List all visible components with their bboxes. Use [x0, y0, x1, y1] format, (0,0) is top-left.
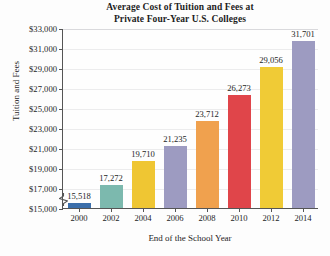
x-axis-tick-label: 2002 [102, 213, 119, 223]
y-axis-tick [59, 189, 63, 190]
x-axis-tick [271, 208, 272, 212]
x-axis-tick [111, 208, 112, 212]
bar-value-label: 23,712 [195, 109, 219, 119]
y-axis-tick [59, 89, 63, 90]
x-axis-tick-label: 2000 [70, 213, 87, 223]
x-axis-tick [303, 208, 304, 212]
bar: 19,710 [132, 161, 155, 208]
x-axis-tick-label: 2008 [198, 213, 215, 223]
bar: 31,701 [292, 41, 315, 208]
y-axis-tick [59, 129, 63, 130]
x-axis-tick [239, 208, 240, 212]
bar-value-label: 26,273 [227, 83, 251, 93]
bar: 26,273 [228, 95, 251, 208]
bar: 17,272 [100, 185, 123, 208]
y-axis-title: Tuition and Fees [11, 31, 21, 151]
chart-title-line-1: Average Cost of Tuition and Fees at [40, 2, 320, 14]
y-axis-tick-label: $33,000 [29, 24, 57, 34]
chart-title: Average Cost of Tuition and Fees at Priv… [40, 2, 320, 25]
gridline [63, 29, 318, 30]
bar: 29,056 [260, 67, 283, 208]
bar-value-label: 17,272 [99, 173, 123, 183]
y-axis-tick-label: $25,000 [29, 104, 57, 114]
bar: 21,235 [164, 146, 187, 208]
y-axis-tick [59, 109, 63, 110]
y-axis-tick [59, 69, 63, 70]
chart-title-line-2: Private Four-Year U.S. Colleges [40, 14, 320, 26]
y-axis-tick [59, 49, 63, 50]
bar-chart: Average Cost of Tuition and Fees at Priv… [0, 0, 330, 256]
bar-value-label: 15,518 [67, 191, 91, 201]
bar-value-label: 29,056 [259, 55, 283, 65]
bar-value-label: 31,701 [291, 29, 315, 39]
y-axis-tick-label: $17,000 [29, 184, 57, 194]
y-axis-tick [59, 149, 63, 150]
bar-value-label: 19,710 [131, 149, 155, 159]
bar: 23,712 [196, 121, 219, 208]
x-axis-tick-label: 2004 [134, 213, 151, 223]
x-axis-tick-label: 2010 [230, 213, 247, 223]
y-axis-tick-label: $31,000 [29, 44, 57, 54]
y-axis-tick-label: $19,000 [29, 164, 57, 174]
x-axis-tick [207, 208, 208, 212]
x-axis-tick-label: 2012 [262, 213, 279, 223]
y-axis-tick [59, 209, 63, 210]
x-axis-tick [175, 208, 176, 212]
plot-inner: $15,000$17,000$19,000$21,000$23,000$25,0… [63, 29, 318, 208]
y-axis-tick-label: $15,000 [29, 204, 57, 214]
y-axis-tick-label: $21,000 [29, 144, 57, 154]
x-axis-tick-label: 2006 [166, 213, 183, 223]
x-axis-title: End of the School Year [62, 233, 318, 243]
y-axis-tick [59, 29, 63, 30]
y-axis-tick-label: $29,000 [29, 64, 57, 74]
x-axis-tick [143, 208, 144, 212]
gridline [63, 49, 318, 50]
x-axis-tick [79, 208, 80, 212]
x-axis-tick-label: 2014 [294, 213, 311, 223]
y-axis-tick-label: $27,000 [29, 84, 57, 94]
y-axis-tick-label: $23,000 [29, 124, 57, 134]
bar-value-label: 21,235 [163, 134, 187, 144]
plot-area: $15,000$17,000$19,000$21,000$23,000$25,0… [62, 29, 318, 209]
y-axis-tick [59, 169, 63, 170]
